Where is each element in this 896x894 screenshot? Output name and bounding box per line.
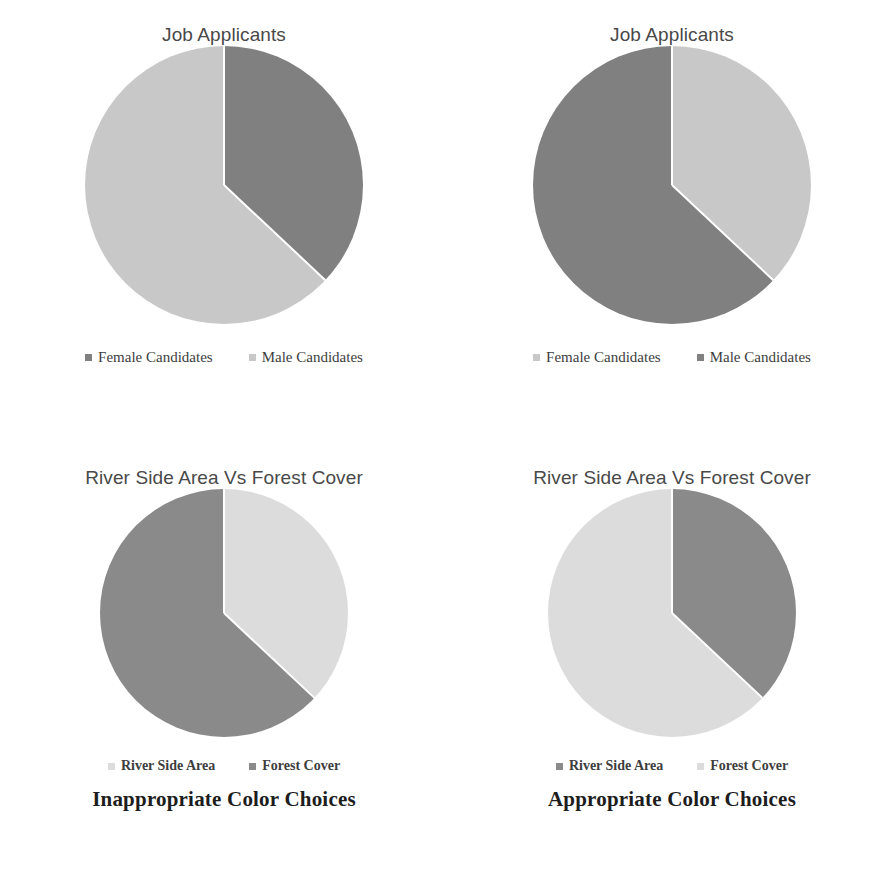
legend-swatch-icon [533,354,540,361]
legend: River Side Area Forest Cover [108,759,340,773]
legend-swatch-icon [249,354,256,361]
legend-swatch-icon [85,354,92,361]
legend-item[interactable]: River Side Area [108,759,215,773]
legend-item[interactable]: Male Candidates [697,350,811,365]
legend-item[interactable]: River Side Area [556,759,663,773]
pie-graphic [548,489,796,737]
chart-title: River Side Area Vs Forest Cover [85,467,363,489]
legend-item-label: Forest Cover [710,759,788,773]
legend-item-label: Female Candidates [546,350,661,365]
color-choice-comparison-figure: Job Applicants Female Candidates Male Ca… [0,0,896,894]
legend-item-label: River Side Area [121,759,215,773]
panel-bottom-right: River Side Area Vs Forest Cover River Si… [448,447,896,894]
pie-slice-separator [223,612,315,698]
pie-chart-river-forest-appropriate [548,489,796,737]
legend-swatch-icon [697,763,704,770]
legend-item[interactable]: Male Candidates [249,350,363,365]
pie-chart-job-applicants-appropriate [533,46,811,324]
legend: River Side Area Forest Cover [556,759,788,773]
legend-item-label: Male Candidates [262,350,363,365]
pie-graphic [533,46,811,324]
legend-item-label: Male Candidates [710,350,811,365]
legend: Female Candidates Male Candidates [85,350,363,365]
legend-item[interactable]: Female Candidates [85,350,213,365]
chart-title: River Side Area Vs Forest Cover [533,467,811,489]
legend-swatch-icon [697,354,704,361]
pie-slice-separator [223,489,225,613]
pie-slice-separator [671,489,673,613]
legend-item-label: Forest Cover [262,759,340,773]
pie-chart-river-forest-inappropriate [100,489,348,737]
pie-slice-separator [671,612,763,698]
legend: Female Candidates Male Candidates [533,350,811,365]
panel-bottom-left: River Side Area Vs Forest Cover River Si… [0,447,448,894]
legend-swatch-icon [108,763,115,770]
chart-title: Job Applicants [162,24,286,46]
panel-top-right: Job Applicants Female Candidates Male Ca… [448,0,896,447]
legend-swatch-icon [556,763,563,770]
legend-item-label: River Side Area [569,759,663,773]
pie-slice-separator [671,184,774,281]
panel-top-left: Job Applicants Female Candidates Male Ca… [0,0,448,447]
legend-swatch-icon [249,763,256,770]
pie-graphic [85,46,363,324]
pie-slice-separator [671,46,673,185]
panel-caption: Inappropriate Color Choices [92,787,356,812]
legend-item[interactable]: Forest Cover [697,759,788,773]
pie-graphic [100,489,348,737]
pie-slice-separator [223,184,326,281]
legend-item-label: Female Candidates [98,350,213,365]
pie-chart-job-applicants-inappropriate [85,46,363,324]
pie-slice-separator [223,46,225,185]
legend-item[interactable]: Forest Cover [249,759,340,773]
legend-item[interactable]: Female Candidates [533,350,661,365]
panel-caption: Appropriate Color Choices [548,787,796,812]
chart-title: Job Applicants [610,24,734,46]
